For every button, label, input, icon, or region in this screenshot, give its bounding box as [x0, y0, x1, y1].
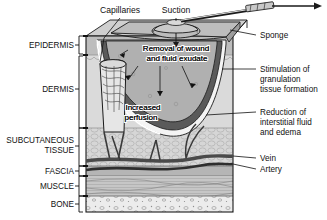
figure-container: EPIDERMIS DERMIS SUBCUTANEOUS TISSUE FAS… [0, 0, 327, 220]
capillary-vessel-body [100, 60, 126, 133]
tube-connector [246, 2, 275, 12]
label-group-left: EPIDERMIS DERMIS SUBCUTANEOUS TISSUE FAS… [6, 41, 74, 209]
bracket-dermis [75, 56, 83, 128]
bracket-subcutaneous [75, 128, 83, 166]
label-subcutaneous-line2: TISSUE [44, 146, 74, 155]
bracket-muscle [75, 176, 83, 196]
suction-tube [181, 10, 250, 21]
label-muscle: MUSCLE [40, 182, 75, 191]
leader-vein [233, 156, 256, 158]
label-perfusion-line1: Increased [125, 103, 160, 112]
label-capillaries: Capillaries [100, 5, 140, 15]
label-group-right: Sponge Stimulation of granulation tissue… [260, 31, 318, 174]
label-reduction-line1: Reduction of [260, 108, 307, 117]
label-removal-line2: and fluid exudate [147, 54, 208, 63]
label-stimulation-line3: tissue formation [260, 85, 318, 94]
label-removal-line1: Removal of wound [143, 44, 209, 53]
leader-artery [233, 164, 256, 169]
bracket-bone [75, 196, 83, 212]
label-bone: BONE [51, 200, 75, 209]
label-suction: Suction [162, 5, 191, 15]
label-vein: Vein [260, 154, 276, 163]
label-stimulation-line1: Stimulation of [260, 65, 310, 74]
label-epidermis: EPIDERMIS [29, 41, 75, 50]
label-reduction-line3: and edema [260, 128, 301, 137]
label-stimulation-line2: granulation [260, 75, 301, 84]
label-subcutaneous: SUBCUTANEOUS [6, 136, 74, 145]
bracket-fascia [75, 166, 83, 176]
capillary-top-opening [100, 60, 126, 69]
npwt-diagram: EPIDERMIS DERMIS SUBCUTANEOUS TISSUE FAS… [0, 0, 327, 220]
bracket-epidermis [75, 36, 83, 54]
label-artery: Artery [260, 165, 283, 174]
label-reduction-line2: interstitial fluid [260, 118, 312, 127]
label-group-top: Capillaries Suction [100, 5, 191, 15]
label-fascia: FASCIA [45, 167, 75, 176]
label-perfusion-line2: perfusion [125, 113, 158, 122]
suction-tube-highlight [181, 9, 250, 20]
label-sponge: Sponge [260, 31, 289, 40]
suction-flow-arrow-icon [314, 3, 322, 10]
label-dermis: DERMIS [42, 85, 74, 94]
layer-bone [86, 196, 233, 212]
